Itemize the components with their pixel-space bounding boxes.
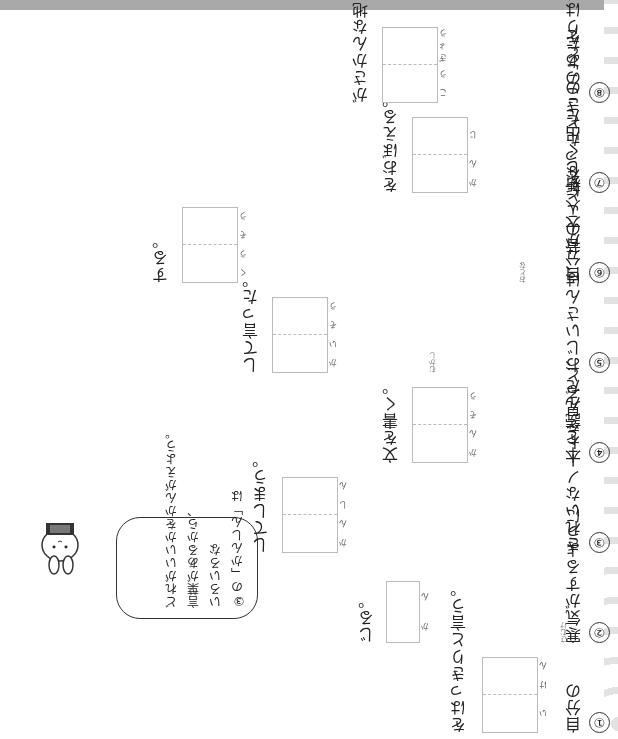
answer-box[interactable]: かい そう (272, 297, 328, 373)
question-number: ⑥ (589, 262, 610, 283)
top-band (0, 0, 618, 10)
reading-hint: そう (239, 207, 251, 244)
answer-box[interactable]: くう そう (182, 207, 238, 283)
reading-hint: そう (469, 387, 481, 424)
reading-hint: かん (421, 582, 433, 642)
answer-box[interactable]: い けん (482, 657, 538, 733)
answer-box[interactable]: かん (386, 581, 420, 643)
reading-hint: じ (469, 117, 481, 154)
answer-cell-2[interactable]: そう (413, 387, 467, 424)
reading-hint: そう (329, 297, 341, 334)
question-number: ⑦ (589, 172, 610, 193)
reading-hint: かん (339, 515, 351, 552)
question-text-before: 本を読んだ (565, 378, 585, 463)
reading-hint: かい (329, 335, 341, 372)
ruby-otona: おとな (518, 262, 528, 283)
question-text-after: 文を書く。 (382, 378, 402, 463)
ruby-mukashi: むかし (428, 352, 438, 373)
answer-box[interactable]: かん そう (412, 387, 468, 463)
answer-cell-1[interactable]: い (483, 694, 537, 732)
question-8: ⑧ このあたりは、 こう ぎょう がさかんな地いきだ。 (0, 19, 618, 109)
question-number: ④ (589, 442, 610, 463)
worksheet: ① 自分の い けん をはっきりと言う。 ② さむけ 寒気がするように かん じ… (0, 0, 618, 739)
question-number: ① (589, 712, 610, 733)
question-text-before: 自分の (565, 682, 585, 733)
reading-hint: けん (539, 657, 551, 694)
reading-hint: くう (239, 245, 251, 282)
answer-cell-1[interactable]: かん (387, 582, 419, 642)
question-6: ⑥ おとな 自分が大人になったときのことを くう そう する。 (0, 199, 618, 289)
answer-box[interactable]: かん じ (412, 117, 468, 193)
question-text-after: がさかんな地いきだ。 (352, 0, 372, 103)
reading-hint: かん (469, 155, 481, 192)
answer-cell-1[interactable]: かん (413, 154, 467, 192)
answer-cell-1[interactable]: こう (383, 64, 437, 102)
question-number: ③ (589, 532, 610, 553)
reading-hint: かん (469, 425, 481, 462)
answer-cell-1[interactable]: かん (413, 424, 467, 462)
answer-cell-2[interactable]: けん (483, 657, 537, 694)
question-4: ④ 本を読んだ かん そう 文を書く。 (0, 379, 618, 469)
reading-hint: い (539, 695, 551, 732)
answer-cell-2[interactable]: じ (413, 117, 467, 154)
question-3: ③ きれいなノートを見ると、 かん しん してしまう。 (0, 469, 618, 559)
question-text-after: じる。 (358, 592, 378, 643)
question-7: ⑦ 新しく出た かん じ をおぼえる。 (0, 109, 618, 199)
answer-cell-1[interactable]: かい (273, 334, 327, 372)
question-number: ⑤ (589, 352, 610, 373)
answer-box[interactable]: こう ぎょう (382, 27, 438, 103)
question-text-before: 新しく出た (565, 108, 585, 193)
reading-hint: こう (439, 65, 451, 102)
question-1: ① 自分の い けん をはっきりと言う。 (0, 649, 618, 739)
answer-cell-2[interactable]: しん (283, 477, 337, 514)
answer-cell-2[interactable]: そう (273, 297, 327, 334)
question-number: ② (589, 622, 610, 643)
question-number: ⑧ (589, 82, 610, 103)
answer-box[interactable]: かん しん (282, 477, 338, 553)
answer-cell-2[interactable]: ぎょう (383, 27, 437, 64)
reading-hint: ぎょう (439, 27, 451, 64)
answer-cell-1[interactable]: くう (183, 244, 237, 282)
question-2: ② さむけ 寒気がするように かん じる。 ③の「かんしん」は いろいろな 言葉… (0, 559, 618, 649)
question-text-before: このあたりは、 (565, 0, 585, 103)
reading-hint: しん (339, 477, 351, 514)
question-text-after: する。 (152, 232, 172, 283)
question-5: ⑤ むかし おじいさんは、昔のことを かい そう して言った。 (0, 289, 618, 379)
answer-cell-2[interactable]: そう (183, 207, 237, 244)
answer-cell-1[interactable]: かん (283, 514, 337, 552)
